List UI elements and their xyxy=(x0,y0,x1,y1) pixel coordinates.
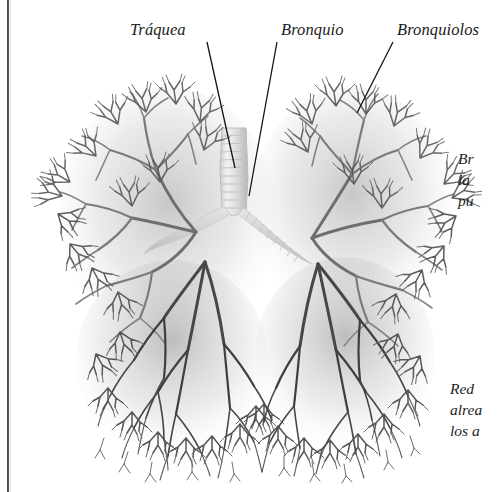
caption-bronquios-line-3: pu xyxy=(458,190,474,211)
caption-red-capilar-line-2: alrea xyxy=(450,399,482,420)
caption-bronquios-line-2: la xyxy=(458,169,474,190)
caption-red-capilar: Red alrea los a xyxy=(450,378,482,441)
label-traquea: Tráquea xyxy=(130,20,186,40)
figure-page: Tráquea Bronquio Bronquiolos Br la pu Re… xyxy=(0,0,499,492)
label-bronquio: Bronquio xyxy=(281,20,344,40)
bronchial-tree-photograph xyxy=(0,0,499,492)
caption-red-capilar-line-3: los a xyxy=(450,420,482,441)
caption-bronquios: Br la pu xyxy=(458,148,474,211)
caption-red-capilar-line-1: Red xyxy=(450,378,482,399)
label-bronquiolos: Bronquiolos xyxy=(397,20,479,40)
trachea xyxy=(220,128,248,216)
caption-bronquios-line-1: Br xyxy=(458,148,474,169)
page-gutter-rule xyxy=(7,0,9,492)
page-gutter-shadow xyxy=(10,0,11,492)
